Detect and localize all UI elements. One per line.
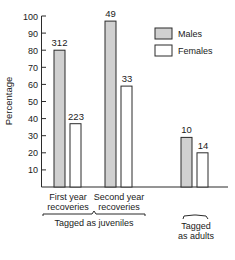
y-tick-label-30: 30 bbox=[28, 131, 38, 141]
category-label-adults-line1: Tagged bbox=[181, 221, 211, 231]
y-tick-label-80: 80 bbox=[28, 46, 38, 56]
y-tick-label-20: 20 bbox=[28, 148, 38, 158]
bar-label-female-first-year: 223 bbox=[68, 111, 84, 122]
bar-group-second-year: 49 33 bbox=[105, 8, 132, 187]
group-label-juveniles: Tagged as juveniles bbox=[54, 218, 134, 228]
legend-swatch-males bbox=[155, 28, 172, 39]
legend-label-females: Females bbox=[178, 46, 213, 56]
bar-female-adults[interactable] bbox=[197, 153, 208, 187]
legend-item-females[interactable]: Females bbox=[155, 45, 213, 56]
bar-label-male-adults: 10 bbox=[181, 124, 192, 135]
y-tick-label-70: 70 bbox=[28, 63, 38, 73]
y-tick-label-90: 90 bbox=[28, 29, 38, 39]
category-label-second-year-line2: recoveries bbox=[98, 202, 140, 212]
bar-group-first-year: 312 223 bbox=[52, 37, 84, 187]
bar-female-first-year[interactable] bbox=[70, 124, 81, 187]
y-tick-label-60: 60 bbox=[28, 80, 38, 90]
y-tick-label-100: 100 bbox=[23, 12, 38, 22]
bar-group-adults: 10 14 bbox=[181, 124, 208, 187]
y-tick-label-40: 40 bbox=[28, 114, 38, 124]
legend-item-males[interactable]: Males bbox=[155, 28, 203, 39]
y-axis: 100 90 80 70 60 50 40 30 20 10 Percentag… bbox=[3, 12, 46, 188]
bar-male-first-year[interactable] bbox=[54, 50, 65, 187]
category-labels: First year recoveries Second year recove… bbox=[47, 192, 214, 241]
bar-male-second-year[interactable] bbox=[105, 21, 116, 187]
legend-swatch-females bbox=[155, 45, 172, 56]
bar-male-adults[interactable] bbox=[181, 137, 192, 187]
category-label-adults-line2: as adults bbox=[178, 231, 215, 241]
bracket-adults bbox=[183, 215, 208, 219]
y-axis-title: Percentage bbox=[3, 77, 14, 126]
bar-label-male-first-year: 312 bbox=[52, 37, 68, 48]
category-label-first-year-line2: recoveries bbox=[47, 202, 89, 212]
category-label-first-year-line1: First year bbox=[49, 192, 87, 202]
bar-label-female-second-year: 33 bbox=[122, 73, 133, 84]
bar-label-female-adults: 14 bbox=[198, 140, 209, 151]
legend: Males Females bbox=[155, 28, 213, 56]
bar-chart: 100 90 80 70 60 50 40 30 20 10 Percentag… bbox=[0, 0, 235, 260]
bar-female-second-year[interactable] bbox=[121, 86, 132, 187]
y-tick-label-10: 10 bbox=[28, 165, 38, 175]
category-label-second-year-line1: Second year bbox=[94, 192, 145, 202]
bar-label-male-second-year: 49 bbox=[105, 8, 116, 19]
legend-label-males: Males bbox=[178, 29, 203, 39]
y-tick-label-50: 50 bbox=[28, 97, 38, 107]
